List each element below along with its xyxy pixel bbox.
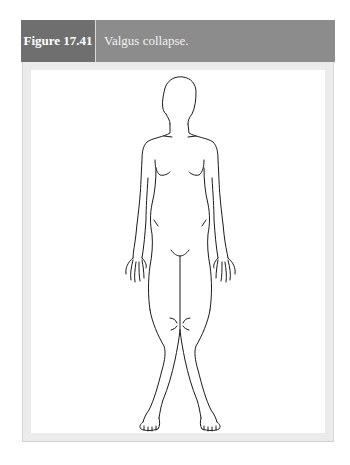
human-figure-illustration [0,0,350,465]
left-foot [140,418,160,431]
right-hand [214,258,236,282]
right-foot [200,418,220,431]
left-hand [126,258,147,282]
torso-left [149,168,157,310]
torso-right [204,168,212,310]
left-shoulder [133,124,170,258]
